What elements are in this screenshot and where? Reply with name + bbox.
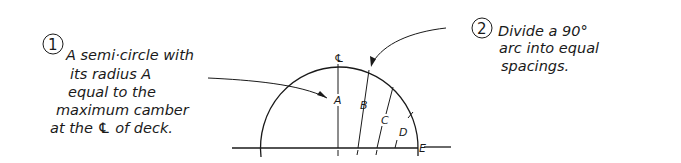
label-b: B	[360, 99, 368, 112]
ordinate-c-lower	[377, 126, 382, 148]
note-2-leader-arrow	[370, 28, 446, 67]
label-e: E	[419, 142, 426, 155]
centerline-symbol: ℄	[334, 52, 344, 65]
note-2-line-2: arc into equal	[499, 40, 599, 56]
note-2-line-1: Divide a 90°	[498, 23, 588, 39]
note-1: 1 A semi·circle with its radius A equal …	[43, 34, 194, 136]
camber-diagram: 1 A semi·circle with its radius A equal …	[0, 0, 681, 163]
note-2-line-3: spacings.	[501, 58, 569, 74]
note-1-number: 1	[48, 36, 58, 54]
label-d: D	[399, 126, 407, 139]
note-2: 2 Divide a 90° arc into equal spacings.	[472, 18, 599, 74]
note-1-leader-arrow	[208, 78, 327, 98]
note-1-line-3: equal to the	[68, 84, 156, 100]
note-2-number: 2	[477, 20, 487, 38]
label-c: C	[381, 114, 389, 127]
semicircle-arc	[261, 67, 419, 157]
label-a: A	[333, 94, 342, 107]
ordinate-c-upper	[386, 87, 393, 114]
note-1-line-4: maximum camber	[56, 102, 190, 118]
note-1-line-2: its radius A	[70, 66, 151, 82]
ordinate-b-tick	[357, 150, 358, 155]
note-1-line-5: at the ℄ of deck.	[50, 120, 173, 136]
ordinate-d	[395, 140, 397, 148]
note-1-line-1: A semi·circle with	[65, 47, 194, 63]
ordinate-c-tick	[376, 150, 377, 155]
